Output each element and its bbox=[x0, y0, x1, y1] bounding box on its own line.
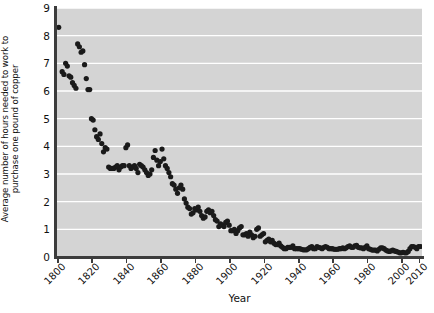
x-axis-tick-label: 1940 bbox=[283, 261, 309, 287]
x-axis-tick-label: 1900 bbox=[214, 261, 240, 287]
x-axis-tick-label: 1800 bbox=[42, 261, 68, 287]
x-axis-tick-label: 1920 bbox=[249, 261, 275, 287]
x-axis-tick-label: 1880 bbox=[180, 261, 206, 287]
x-axis-title: Year bbox=[57, 292, 422, 304]
x-axis-tick-label: 1960 bbox=[317, 261, 343, 287]
x-axis-tick-labels: 1800182018401860188019001920194019601980… bbox=[0, 0, 434, 313]
x-axis-tick-label: 1860 bbox=[145, 261, 171, 287]
x-axis-tick-label: 1980 bbox=[352, 261, 378, 287]
x-axis-tick-label: 1820 bbox=[76, 261, 102, 287]
x-axis-tick-label: 1840 bbox=[111, 261, 137, 287]
copper-work-hours-scatter-chart: Average number of hours needed to work t… bbox=[0, 0, 434, 313]
